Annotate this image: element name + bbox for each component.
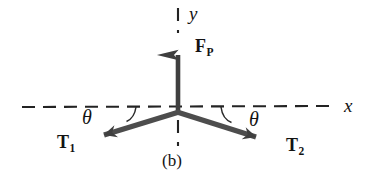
figure-caption: (b) bbox=[162, 152, 182, 169]
vector-label-T2-main: T bbox=[286, 135, 298, 155]
vector-label-Fp: FP bbox=[195, 37, 213, 55]
vector-label-T2-subscript: 2 bbox=[299, 145, 305, 157]
angle-arc-theta-left bbox=[127, 107, 137, 122]
angle-label-theta-left: θ bbox=[82, 107, 92, 127]
x-axis-label: x bbox=[344, 96, 352, 115]
free-body-diagram-figure: y x FP T1 T2 θ θ (b) bbox=[0, 0, 371, 187]
vector-T1-arrow bbox=[104, 112, 179, 135]
angle-label-theta-right: θ bbox=[249, 109, 259, 129]
vector-label-T2: T2 bbox=[286, 136, 304, 154]
angle-arc-theta-right bbox=[221, 107, 232, 123]
vector-label-T1-subscript: 1 bbox=[70, 142, 76, 154]
vector-label-Fp-subscript: P bbox=[207, 46, 214, 58]
vector-label-T1: T1 bbox=[57, 133, 75, 151]
vector-T2-arrow bbox=[177, 112, 256, 137]
diagram-canvas bbox=[0, 0, 371, 187]
vector-label-T1-main: T bbox=[57, 132, 69, 152]
vector-label-Fp-main: F bbox=[195, 36, 206, 56]
y-axis-label: y bbox=[189, 4, 197, 23]
